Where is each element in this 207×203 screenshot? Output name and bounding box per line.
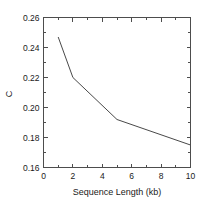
y-tick-label: 0.16: [23, 163, 40, 173]
x-tick-label: 4: [100, 171, 105, 181]
plot-background: [43, 17, 191, 168]
x-tick-label: 2: [71, 171, 76, 181]
y-tick-label: 0.26: [23, 13, 40, 23]
y-tick-label: 0.24: [23, 43, 40, 53]
x-axis-title: Sequence Length (kb): [73, 187, 162, 197]
chart-figure: 0.160.180.200.220.240.26 0246810 Sequenc…: [0, 0, 207, 203]
y-axis-tick-labels: 0.160.180.200.220.240.26: [23, 13, 40, 173]
line-chart: 0.160.180.200.220.240.26 0246810 Sequenc…: [0, 0, 207, 203]
x-tick-label: 10: [186, 171, 196, 181]
x-axis-tick-labels: 0246810: [41, 171, 195, 181]
y-tick-label: 0.20: [23, 103, 40, 113]
y-tick-label: 0.18: [23, 133, 40, 143]
y-axis-title: C: [4, 90, 14, 97]
x-tick-label: 8: [159, 171, 164, 181]
x-tick-label: 6: [129, 171, 134, 181]
y-tick-label: 0.22: [23, 73, 40, 83]
x-tick-label: 0: [41, 171, 46, 181]
